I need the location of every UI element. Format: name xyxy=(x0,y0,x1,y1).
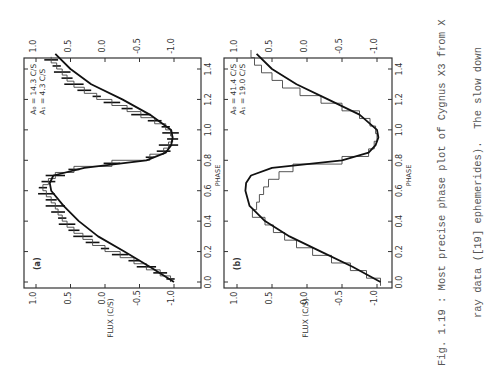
y-tick-label-right: 0.5 xyxy=(64,40,73,53)
fit-curve xyxy=(245,54,380,282)
x-tick-label: 0.4 xyxy=(395,215,404,228)
y-tick-label-right: -1.0 xyxy=(167,38,176,54)
x-tick-label: 0.6 xyxy=(395,184,404,197)
y-tick-label-right: 0.5 xyxy=(265,40,274,53)
panel-b-chart: 0.00.20.40.60.81.01.21.41.01.00.50.50.00… xyxy=(224,38,413,338)
figure-caption: Fig. 1.19 : Most precise phase plot of C… xyxy=(412,19,488,366)
x-tick-label: 0.6 xyxy=(204,184,213,197)
y-tick-label: 0.5 xyxy=(64,292,73,305)
y-tick-label: 0.5 xyxy=(265,292,274,305)
y-axis-label: FLUX (C/S) xyxy=(301,298,310,338)
y-tick-label-right: -0.5 xyxy=(133,38,142,54)
fit-parameter-annotation: A₁ = 4.3 C/S xyxy=(38,68,47,114)
x-tick-label: 0.8 xyxy=(395,154,404,167)
fit-curve xyxy=(50,54,174,282)
y-tick-label: -1.0 xyxy=(370,290,379,306)
x-tick-label: 1.4 xyxy=(204,63,213,76)
x-tick-label: 0.8 xyxy=(204,154,213,167)
panel-label: (b) xyxy=(233,257,242,270)
fit-parameter-annotation: A₁ = 19.0 C/S xyxy=(238,64,247,115)
x-tick-label: 1.0 xyxy=(204,123,213,136)
plot-frame xyxy=(24,58,201,288)
fit-parameter-annotation: A₀ = 14.3 C/S xyxy=(29,64,38,115)
y-tick-label-right: 0.0 xyxy=(300,40,309,53)
fit-parameter-annotation: A₀ = 41.4 C/S xyxy=(229,64,238,115)
y-tick-label-right: -1.0 xyxy=(370,38,379,54)
x-tick-label: 0.0 xyxy=(204,276,213,289)
y-tick-label: -1.0 xyxy=(167,290,176,306)
x-tick-label: 0.4 xyxy=(204,215,213,228)
y-tick-label-right: 1.0 xyxy=(29,40,38,53)
x-tick-label: 1.2 xyxy=(395,93,404,106)
y-tick-label: 1.0 xyxy=(29,292,38,305)
y-tick-label-right: -0.5 xyxy=(335,38,344,54)
x-axis-label: PHASE xyxy=(214,165,222,187)
panel-a-chart: 0.00.20.40.60.81.01.21.41.01.00.50.50.00… xyxy=(24,38,222,338)
caption-line-2: ray data ([19] ephemerides). The slow do… xyxy=(472,19,484,366)
plot-frame xyxy=(224,58,392,288)
y-tick-label-right: 1.0 xyxy=(230,40,239,53)
x-tick-label: 0.0 xyxy=(395,276,404,289)
caption-line-1: Fig. 1.19 : Most precise phase plot of C… xyxy=(436,19,448,366)
x-tick-label: 1.2 xyxy=(204,93,213,106)
y-axis-label: FLUX (C/S) xyxy=(106,298,115,338)
y-tick-label-right: 0.0 xyxy=(98,40,107,53)
y-tick-label: -0.5 xyxy=(133,290,142,306)
x-tick-label: 1.0 xyxy=(395,123,404,136)
panel-label: (a) xyxy=(33,257,42,270)
x-tick-label: 0.2 xyxy=(395,245,404,258)
x-tick-label: 1.4 xyxy=(395,63,404,76)
y-tick-label: 1.0 xyxy=(230,292,239,305)
x-tick-label: 0.2 xyxy=(204,245,213,258)
y-tick-label: -0.5 xyxy=(335,290,344,306)
